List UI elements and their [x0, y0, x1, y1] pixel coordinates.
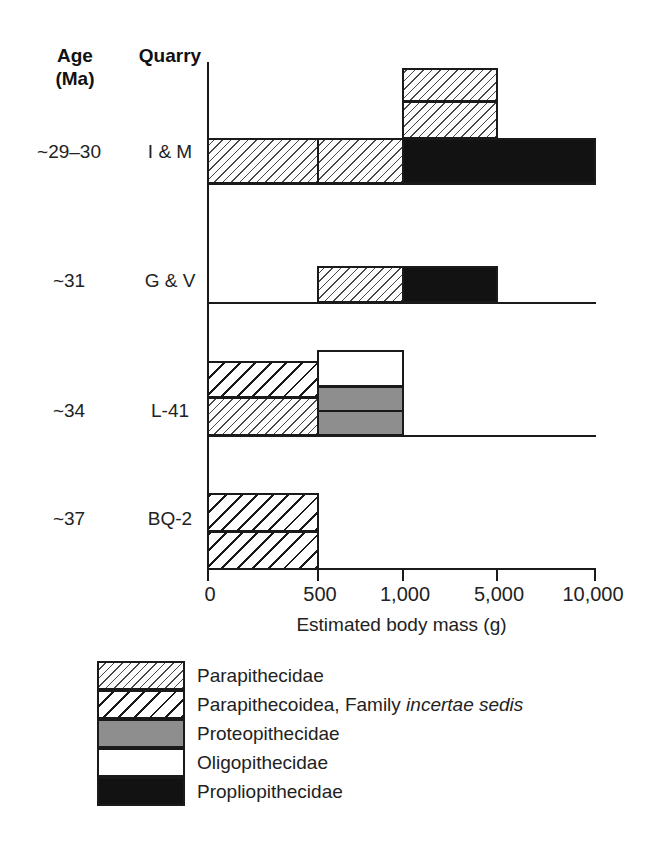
bar-l41-incertae-sedis [207, 361, 319, 398]
bar-l41-oligopithecidae [317, 350, 404, 387]
bar-bq2-incertae-sedis-upper [207, 493, 319, 532]
legend-swatch-proteopithecidae [97, 719, 185, 748]
bar-bq2-incertae-sedis-lower [207, 531, 319, 570]
x-axis-title: Estimated body mass (g) [207, 614, 596, 636]
row-age-bq2: ~37 [14, 508, 124, 530]
legend-label-oligopithecidae: Oligopithecidae [197, 748, 328, 777]
body-mass-figure: Age (Ma) Quarry ~29–30 I & M ~31 G & V ~… [0, 0, 655, 856]
legend-label-propliopithecidae: Propliopithecidae [197, 777, 343, 806]
x-tick-label-0: 0 [204, 583, 215, 606]
x-tick-label-500: 500 [303, 583, 336, 606]
x-tick-10000 [594, 570, 596, 581]
legend-label-incertae-sedis: Parapithecoidea, Family incertae sedis [197, 690, 523, 719]
legend-swatch-incertae-sedis [97, 690, 185, 719]
column-header-age-line2: (Ma) [30, 67, 120, 90]
legend-swatch-oligopithecidae [97, 748, 185, 777]
x-tick-label-1000: 1,000 [380, 583, 430, 606]
bar-gv-parapithecidae [317, 266, 404, 303]
bar-l41-proteopithecidae-upper [317, 386, 404, 412]
x-tick-1000 [402, 570, 404, 581]
legend-label-incertae-sedis-italic: incertae sedis [406, 694, 523, 715]
bar-l41-parapithecidae [207, 397, 319, 436]
legend-swatch-parapithecidae [97, 661, 185, 690]
row-age-im: ~29–30 [14, 141, 124, 163]
row-age-gv: ~31 [14, 270, 124, 292]
column-header-age-line1: Age [57, 45, 93, 66]
bar-im-parapithecidae-0-500 [207, 138, 319, 184]
column-header-quarry-label: Quarry [139, 45, 201, 66]
bar-im-propliopithecidae [402, 138, 596, 184]
bar-im-parapithecidae-upper2 [402, 68, 498, 102]
legend-swatch-propliopithecidae [97, 777, 185, 806]
legend-label-parapithecidae: Parapithecidae [197, 661, 324, 690]
bar-im-parapithecidae-500-1000 [317, 138, 404, 184]
bar-im-parapithecidae-upper1 [402, 101, 498, 139]
x-tick-5000 [496, 570, 498, 581]
bar-l41-proteopithecidae-lower [317, 410, 404, 436]
column-header-quarry: Quarry [120, 44, 220, 67]
row-age-l41: ~34 [14, 400, 124, 422]
x-tick-label-10000: 10,000 [562, 583, 623, 606]
x-tick-500 [317, 570, 319, 581]
x-tick-0 [207, 570, 209, 581]
bar-gv-propliopithecidae [402, 266, 498, 303]
legend-label-incertae-sedis-prefix: Parapithecoidea, Family [197, 694, 406, 715]
x-tick-label-5000: 5,000 [474, 583, 524, 606]
legend-label-proteopithecidae: Proteopithecidae [197, 719, 340, 748]
column-header-age: Age (Ma) [30, 44, 120, 90]
